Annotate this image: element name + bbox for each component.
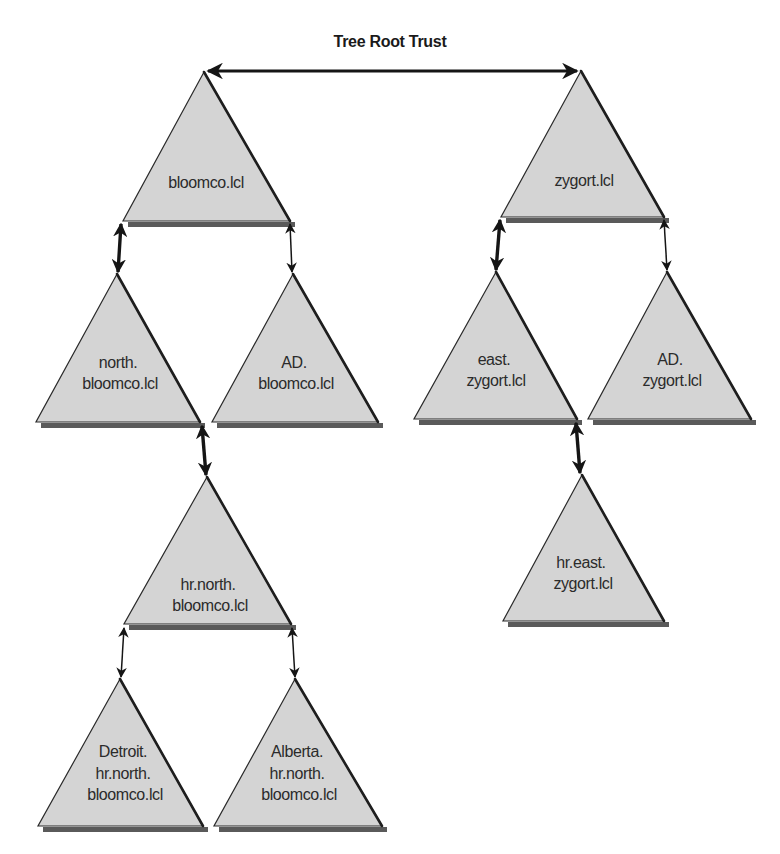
domain-detroit-hr-north-bloomco-lcl[interactable]: Detroit. hr.north. bloomco.lcl (38, 679, 208, 832)
domain-hr-east-zygort-lcl[interactable]: hr.east. zygort.lcl (503, 475, 669, 627)
domain-north-bloomco-lcl[interactable]: north. bloomco.lcl (36, 274, 205, 428)
forest-trust-diagram: Tree Root Trust bloomco.lcl zygort.lcl n… (0, 0, 780, 854)
trust-arrow-north-hrnorth (202, 426, 206, 475)
triangle-shadow (217, 423, 383, 428)
domain-alberta-hr-north-bloomco-lcl[interactable]: Alberta. hr.north. bloomco.lcl (214, 679, 387, 832)
domain-triangle (501, 71, 664, 217)
domain-triangle (414, 272, 577, 419)
triangle-shadow (593, 420, 756, 425)
domain-hr-north-bloomco-lcl[interactable]: hr.north. bloomco.lcl (124, 477, 296, 630)
trust-arrow-zygort-east (496, 220, 500, 270)
domain-label: bloomco.lcl (168, 174, 244, 191)
triangle-shadow (43, 827, 208, 832)
domain-triangle (588, 272, 751, 419)
trust-arrow-zygort-ad (664, 220, 667, 270)
domain-triangle (212, 274, 378, 422)
domain-triangle (503, 475, 664, 621)
triangle-shadow (128, 222, 295, 227)
trust-arrow-hrnorth-detroit (121, 628, 124, 677)
triangle-shadow (506, 218, 669, 223)
triangle-shadow (219, 827, 387, 832)
triangle-shadow (419, 420, 582, 425)
diagram-title: Tree Root Trust (334, 33, 448, 50)
domain-bloomco-lcl[interactable]: bloomco.lcl (123, 72, 295, 227)
trust-arrow-bloomco-north (118, 224, 121, 272)
domain-zygort-lcl[interactable]: zygort.lcl (501, 71, 669, 223)
trust-arrow-hrnorth-alberta (292, 628, 295, 677)
domain-label: zygort.lcl (554, 172, 613, 189)
domain-label: Alberta. hr.north. bloomco.lcl (261, 743, 337, 803)
triangle-shadow (41, 423, 205, 428)
trust-arrow-bloomco-ad (290, 224, 292, 272)
domain-triangle (36, 274, 200, 422)
triangle-shadow (508, 622, 669, 627)
domain-triangle (123, 72, 290, 221)
domain-ad-zygort-lcl[interactable]: AD. zygort.lcl (588, 272, 756, 425)
trust-arrow-east-hreast (576, 423, 580, 473)
diagram-svg: Tree Root Trust bloomco.lcl zygort.lcl n… (0, 0, 780, 854)
domain-east-zygort-lcl[interactable]: east. zygort.lcl (414, 272, 582, 425)
domain-ad-bloomco-lcl[interactable]: AD. bloomco.lcl (212, 274, 383, 428)
triangle-shadow (129, 625, 296, 630)
